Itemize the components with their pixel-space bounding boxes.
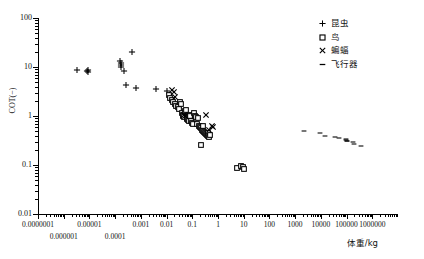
y-tick-minor (35, 69, 38, 70)
y-tick-label: 0.01 (0, 210, 32, 218)
x-tick-minor (131, 215, 132, 217)
x-tick-minor (76, 215, 77, 217)
x-tick-minor (234, 215, 235, 217)
x-tick-minor (179, 215, 180, 217)
x-tick-minor (277, 215, 278, 217)
x-tick-major (372, 215, 373, 219)
x-tick-minor (72, 215, 73, 217)
y-tick-minor (35, 124, 38, 125)
x-tick-label: 0.000001 (50, 233, 78, 241)
x-tick-label: 10 (240, 221, 248, 229)
x-tick-minor (362, 215, 363, 217)
x-tick-minor (262, 215, 263, 217)
x-tick-minor (182, 215, 183, 217)
y-tick-minor (35, 52, 38, 53)
x-tick-minor (200, 215, 201, 217)
x-tick-major (321, 215, 322, 219)
x-tick-minor (354, 215, 355, 217)
legend-item-bats[interactable]: 蝙蝠 (316, 44, 358, 58)
legend-label: 昆虫 (331, 17, 349, 31)
x-tick-minor (123, 215, 124, 217)
x-tick-minor (397, 215, 398, 217)
x-tick-major (295, 215, 296, 219)
x-tick-major (347, 215, 348, 219)
x-tick-minor (365, 215, 366, 217)
x-tick-minor (303, 215, 304, 217)
x-tick-label: 100000 (335, 221, 358, 229)
x-tick-minor (149, 215, 150, 217)
x-tick-minor (287, 215, 288, 217)
y-tick-minor (35, 199, 38, 200)
x-tick-minor (156, 215, 157, 217)
x-tick-major (192, 215, 193, 219)
legend-label: 飞行器 (331, 58, 358, 72)
y-tick-minor (35, 26, 38, 27)
y-tick-minor (35, 23, 38, 24)
x-tick-minor (311, 215, 312, 217)
x-tick-minor (339, 215, 340, 217)
legend-item-aircraft[interactable]: 飞行器 (316, 58, 358, 72)
x-tick-minor (285, 215, 286, 217)
y-tick-minor (35, 72, 38, 73)
x-tick-minor (259, 215, 260, 217)
x-tick-minor (50, 215, 51, 217)
y-tick-label: 100 (0, 14, 32, 22)
x-tick-minor (56, 215, 57, 217)
x-tick-major (64, 215, 65, 219)
y-tick-major (33, 116, 38, 117)
x-tick-minor (205, 215, 206, 217)
y-tick-minor (35, 191, 38, 192)
y-tick-label: 0.1 (0, 161, 32, 169)
plus-marker-icon (316, 20, 328, 27)
y-tick-minor (35, 142, 38, 143)
x-tick-minor (252, 215, 253, 217)
x-tick-major (89, 215, 90, 219)
y-tick-major (33, 18, 38, 19)
y-tick-minor (35, 118, 38, 119)
x-tick-label: 0.001 (132, 221, 149, 229)
y-tick-minor (35, 38, 38, 39)
y-tick-major (33, 67, 38, 68)
x-tick-minor (313, 215, 314, 217)
x-tick-label: 10000 (312, 221, 331, 229)
x-tick-label: 0.1 (188, 221, 197, 229)
x-tick-minor (336, 215, 337, 217)
y-tick-minor (35, 176, 38, 177)
y-tick-minor (35, 131, 38, 132)
y-tick-minor (35, 121, 38, 122)
x-tick-minor (185, 215, 186, 217)
legend-item-insects[interactable]: 昆虫 (316, 17, 358, 31)
x-tick-label: 1000 (288, 221, 303, 229)
x-tick-minor (230, 215, 231, 217)
x-tick-minor (210, 215, 211, 217)
y-tick-minor (35, 33, 38, 34)
y-tick-minor (35, 101, 38, 102)
y-tick-minor (35, 173, 38, 174)
y-tick-minor (35, 44, 38, 45)
x-tick-minor (54, 215, 55, 217)
cross-marker-icon (316, 47, 328, 54)
x-tick-minor (97, 215, 98, 217)
x-tick-major (244, 215, 245, 219)
x-tick-minor (256, 215, 257, 217)
y-tick-minor (35, 150, 38, 151)
x-tick-major (218, 215, 219, 219)
legend-label: 鸟 (331, 31, 340, 45)
square-marker-icon (316, 34, 328, 41)
x-tick-minor (329, 215, 330, 217)
legend-item-birds[interactable]: 鸟 (316, 31, 358, 45)
y-tick-minor (35, 185, 38, 186)
y-axis-title: COT(−) (8, 71, 17, 131)
x-tick-minor (388, 215, 389, 217)
x-tick-minor (385, 215, 386, 217)
y-tick-minor (35, 82, 38, 83)
x-tick-minor (380, 215, 381, 217)
y-tick-minor (35, 78, 38, 79)
x-tick-minor (46, 215, 47, 217)
x-tick-minor (236, 215, 237, 217)
x-tick-minor (107, 215, 108, 217)
x-tick-minor (390, 215, 391, 217)
y-tick-minor (35, 136, 38, 137)
x-tick-label: 100 (264, 221, 275, 229)
y-tick-minor (35, 170, 38, 171)
